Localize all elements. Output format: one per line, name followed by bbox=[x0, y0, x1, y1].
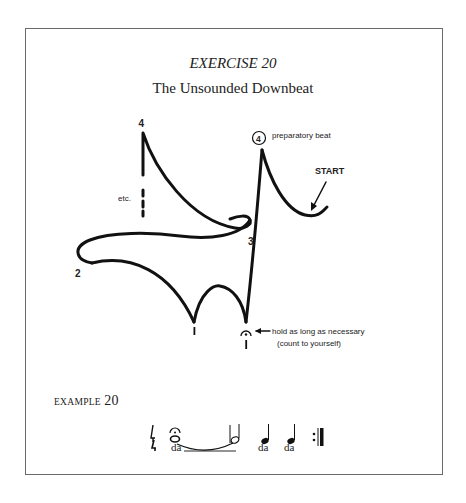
prep-beat-curve bbox=[262, 150, 327, 216]
etc-label: etc. bbox=[118, 194, 131, 203]
beat-4-to-3-curve bbox=[143, 133, 250, 228]
beat-1a-tick bbox=[194, 327, 196, 335]
hold-note-line2: (count to yourself) bbox=[277, 339, 341, 348]
lyric-2: da bbox=[258, 441, 268, 453]
beat-1b-tick bbox=[245, 340, 247, 349]
prep-beat-text: preparatory beat bbox=[272, 131, 331, 140]
fermata-icon bbox=[241, 331, 251, 336]
time-signature-icon bbox=[151, 425, 156, 451]
beat-1-bounce bbox=[194, 286, 246, 322]
hold-arrowhead-icon bbox=[255, 328, 261, 334]
hold-note-line1: hold as long as necessary bbox=[272, 327, 365, 336]
beat-4-label: 4 bbox=[139, 118, 145, 129]
repeat-sign-icon bbox=[313, 428, 324, 446]
beat-3-label: 3 bbox=[248, 236, 254, 247]
lyric-1: da bbox=[171, 441, 181, 453]
beat-2-to-1-curve bbox=[92, 261, 194, 322]
example-label: EXAMPLE 20 bbox=[54, 393, 119, 409]
example-label-number: 20 bbox=[104, 393, 119, 408]
prep-beat-number: 4 bbox=[256, 134, 261, 144]
lyric-3: da bbox=[284, 441, 294, 453]
conducting-pattern-diagram: 4 2 3 4 START etc. preparatory beat hold… bbox=[0, 0, 466, 503]
tie-icon bbox=[177, 443, 233, 450]
start-arrow-line bbox=[313, 182, 326, 207]
start-label: START bbox=[315, 166, 345, 176]
example-label-prefix: EXAMPLE bbox=[54, 397, 101, 407]
start-arrowhead-icon bbox=[311, 202, 317, 211]
beat-2-label: 2 bbox=[75, 268, 81, 279]
